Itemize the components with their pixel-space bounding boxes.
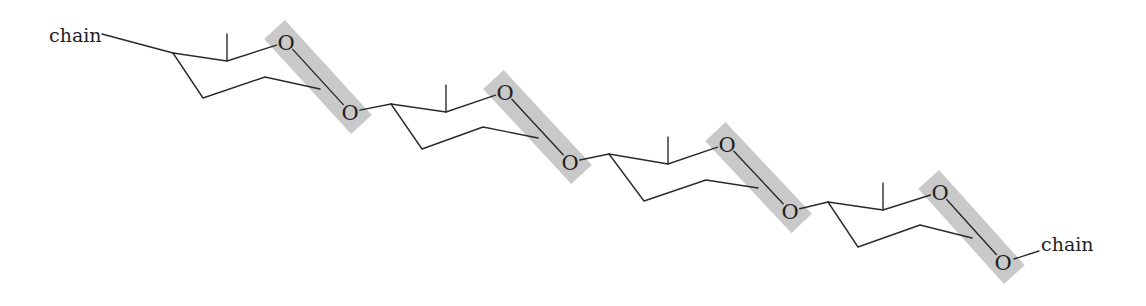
ring-oxygen-atom: O [277,31,294,55]
ring-oxygen-atom: O [931,181,948,205]
glycosidic-oxygen-atom: O [994,251,1011,275]
chain-label-right: chain [1041,233,1094,255]
ring-upper-edge [828,195,930,210]
ring-oxygen-atom: O [496,81,513,105]
polysaccharide-diagram: OOOOOOOO chain chain [0,0,1146,306]
ring-upper-edge [391,95,496,112]
chain-label-left: chain [49,24,102,46]
glycosidic-oxygen-atom: O [781,200,798,224]
chain-bond-right [1014,251,1039,259]
ring-upper-edge [173,45,276,61]
oxygen-atoms: OOOOOOOO [277,31,1011,275]
glycosidic-bond-highlights [264,20,1025,284]
chain-bond-left [102,34,173,53]
ring-upper-edge [609,147,718,164]
glycosidic-oxygen-atom: O [561,151,578,175]
glycosidic-link [360,104,391,110]
chain-labels: chain chain [49,24,1094,255]
ring-oxygen-atom: O [718,133,735,157]
glycosidic-oxygen-atom: O [341,101,358,125]
glycosidic-link [800,202,828,209]
